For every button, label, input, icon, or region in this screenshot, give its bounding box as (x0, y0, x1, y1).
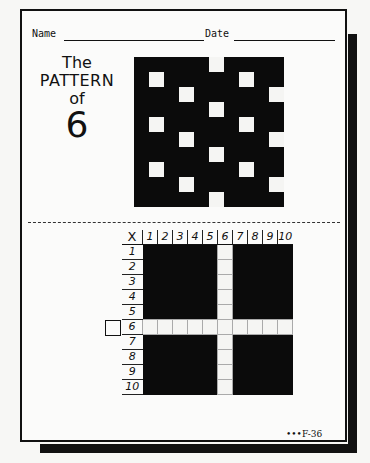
page-shadow-bottom (40, 444, 357, 453)
grid-cell-open[interactable] (188, 320, 203, 335)
pattern-cell (164, 192, 179, 207)
grid-cell-filled (278, 245, 293, 260)
grid-cell-filled (143, 290, 158, 305)
grid-cell-filled (158, 275, 173, 290)
column-header: 4 (188, 230, 203, 245)
pattern-cell-highlighted (269, 177, 284, 192)
grid-cell-filled (143, 275, 158, 290)
grid-cell-filled (248, 380, 263, 395)
worksheet: Name Date The PATTERN of 6 X123456789101… (20, 9, 347, 442)
grid-cell-filled (278, 290, 293, 305)
pattern-cell (254, 117, 269, 132)
grid-cell-filled (188, 350, 203, 365)
grid-cell-filled (278, 305, 293, 320)
pattern-cell (209, 72, 224, 87)
grid-cell-filled (203, 365, 218, 380)
pattern-cell (224, 57, 239, 72)
grid-cell-open[interactable] (218, 335, 233, 350)
grid-cell-open[interactable] (263, 320, 278, 335)
grid-cell-filled (188, 335, 203, 350)
pattern-cell (134, 57, 149, 72)
pattern-cell (194, 57, 209, 72)
grid-cell-filled (203, 245, 218, 260)
pattern-cell (164, 102, 179, 117)
grid-cell-open[interactable] (218, 350, 233, 365)
grid-corner-x: X (122, 230, 143, 245)
page-code: •••F-36 (286, 429, 322, 439)
row-header: 8 (122, 350, 143, 365)
row-header: 5 (122, 305, 143, 320)
column-header: 6 (218, 230, 233, 245)
grid-cell-filled (143, 260, 158, 275)
pattern-cell (254, 102, 269, 117)
pattern-cell (194, 162, 209, 177)
date-field[interactable] (234, 40, 335, 41)
grid-cell-filled (158, 290, 173, 305)
pattern-cell (194, 72, 209, 87)
pattern-cell (254, 87, 269, 102)
pattern-cell (164, 117, 179, 132)
grid-cell-open[interactable] (218, 245, 233, 260)
pattern-cell (194, 117, 209, 132)
cut-line-divider (28, 222, 340, 223)
grid-cell-open[interactable] (218, 260, 233, 275)
pattern-cell (179, 147, 194, 162)
pattern-cell-highlighted (209, 57, 224, 72)
pattern-cell (224, 87, 239, 102)
grid-cell-open[interactable] (278, 320, 293, 335)
grid-cell-filled (278, 335, 293, 350)
grid-cell-open[interactable] (218, 365, 233, 380)
grid-cell-open[interactable] (218, 380, 233, 395)
grid-cell-open[interactable] (158, 320, 173, 335)
pattern-cell (179, 72, 194, 87)
pattern-cell (194, 177, 209, 192)
grid-cell-filled (248, 290, 263, 305)
row-header: 7 (122, 335, 143, 350)
grid-cell-filled (263, 365, 278, 380)
grid-cell-filled (173, 275, 188, 290)
pattern-cell (179, 102, 194, 117)
grid-cell-filled (203, 305, 218, 320)
pattern-cell-highlighted (209, 192, 224, 207)
grid-cell-filled (173, 290, 188, 305)
pattern-cell (239, 102, 254, 117)
pattern-cell-highlighted (239, 117, 254, 132)
grid-cell-filled (263, 305, 278, 320)
pattern-cell (179, 57, 194, 72)
pattern-cell (209, 132, 224, 147)
pattern-cell (209, 117, 224, 132)
grid-cell-open[interactable] (218, 290, 233, 305)
grid-cell-filled (233, 335, 248, 350)
pattern-cell (254, 162, 269, 177)
grid-cell-filled (203, 260, 218, 275)
grid-cell-open[interactable] (218, 305, 233, 320)
grid-cell-filled (188, 305, 203, 320)
pattern-cell (254, 132, 269, 147)
pattern-cell (134, 147, 149, 162)
grid-cell-open[interactable] (203, 320, 218, 335)
column-header: 9 (263, 230, 278, 245)
answer-box[interactable] (105, 320, 121, 336)
grid-cell-open[interactable] (233, 320, 248, 335)
pattern-cell (149, 192, 164, 207)
pattern-cell (164, 72, 179, 87)
grid-cell-filled (233, 365, 248, 380)
grid-cell-open[interactable] (248, 320, 263, 335)
grid-cell-filled (263, 335, 278, 350)
pattern-cell-highlighted (179, 132, 194, 147)
grid-cell-open[interactable] (173, 320, 188, 335)
grid-cell-filled (203, 335, 218, 350)
grid-cell-filled (203, 380, 218, 395)
grid-cell-filled (158, 365, 173, 380)
grid-cell-open[interactable] (218, 275, 233, 290)
pattern-cell (239, 177, 254, 192)
name-field[interactable] (64, 40, 204, 41)
grid-cell-filled (173, 365, 188, 380)
grid-cell-open[interactable] (218, 320, 233, 335)
column-header: 3 (173, 230, 188, 245)
pattern-cell (254, 147, 269, 162)
grid-cell-filled (248, 305, 263, 320)
pattern-cell-highlighted (269, 87, 284, 102)
grid-cell-filled (143, 305, 158, 320)
grid-cell-open[interactable] (143, 320, 158, 335)
